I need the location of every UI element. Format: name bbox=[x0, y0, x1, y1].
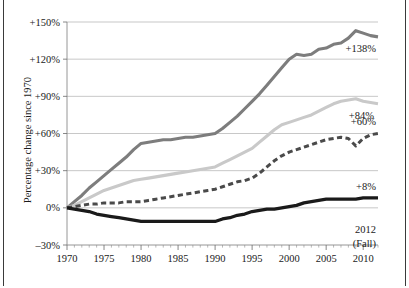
y-axis-title: Percentage change since 1970 bbox=[22, 77, 33, 203]
x-tick-label: 1990 bbox=[205, 253, 226, 264]
y-tick-label: +60% bbox=[35, 128, 60, 139]
series-end-labels-group: +138%+84%+60%+8% bbox=[346, 43, 377, 192]
x-tick-label: 2000 bbox=[279, 253, 300, 264]
line-chart: +150%+120%+90%+60%+30%0%–30% 19701975198… bbox=[0, 0, 409, 288]
x-tick-label: 1995 bbox=[242, 253, 263, 264]
series-light-gray-solid bbox=[67, 99, 378, 208]
y-tick-label: +30% bbox=[35, 165, 60, 176]
series-end-label: +138% bbox=[346, 43, 377, 54]
series-end-label: +60% bbox=[351, 116, 376, 127]
figure-container: +150%+120%+90%+60%+30%0%–30% 19701975198… bbox=[0, 0, 409, 288]
x-tick-label: 1980 bbox=[131, 253, 152, 264]
y-tick-labels-group: +150%+120%+90%+60%+30%0%–30% bbox=[30, 17, 61, 251]
end-note-group: 2012(Fall) bbox=[353, 224, 377, 250]
y-tick-label: 0% bbox=[46, 202, 60, 213]
x-tick-label: 1985 bbox=[168, 253, 189, 264]
end-note-line: (Fall) bbox=[353, 238, 377, 250]
x-tick-label: 1975 bbox=[94, 253, 115, 264]
y-tick-label: –30% bbox=[35, 240, 61, 251]
end-note-line: 2012 bbox=[355, 224, 376, 235]
x-tick-labels-group: 197019751980198519901995200020052010 bbox=[57, 253, 374, 264]
gridlines-group bbox=[67, 22, 378, 208]
y-tick-label: +120% bbox=[30, 54, 61, 65]
series-end-label: +8% bbox=[356, 181, 376, 192]
y-tick-label: +90% bbox=[35, 91, 60, 102]
y-tick-label: +150% bbox=[30, 17, 61, 28]
x-tick-label: 1970 bbox=[57, 253, 78, 264]
x-tick-label: 2010 bbox=[353, 253, 374, 264]
x-tick-label: 2005 bbox=[316, 253, 337, 264]
series-dark-gray-solid bbox=[67, 31, 378, 208]
